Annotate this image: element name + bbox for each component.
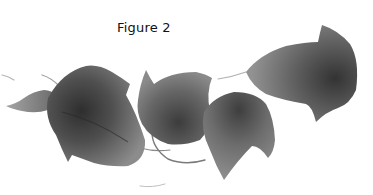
center-leaf <box>138 70 213 145</box>
leaf-illustration <box>0 0 373 195</box>
lower-right-leaf <box>203 92 275 180</box>
figure-canvas: Figure 2 <box>0 0 373 195</box>
large-left-leaf <box>47 66 145 167</box>
